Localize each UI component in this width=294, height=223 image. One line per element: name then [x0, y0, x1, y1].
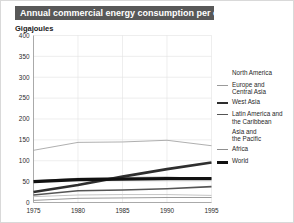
y-tick-50: 50 [22, 178, 30, 185]
legend-swatch-icon [217, 149, 228, 150]
x-axis-tick-labels: 19751980198519901995 [26, 207, 219, 214]
legend-item-label: World [232, 157, 293, 164]
y-tick-100: 100 [19, 157, 30, 164]
x-tick-1990: 1990 [160, 207, 175, 214]
x-tick-1985: 1985 [115, 207, 130, 214]
x-tick-1980: 1980 [71, 207, 86, 214]
legend-item-label: Europe and Central Asia [232, 81, 293, 95]
y-tick-300: 300 [19, 74, 30, 81]
legend-swatch-icon [217, 161, 228, 164]
legend-item-latin-america-and-the-caribbean[interactable]: Latin America and the Caribbean [217, 110, 293, 124]
x-tick-1995: 1995 [204, 207, 219, 214]
chart-figure: Annual commercial energy consumption per… [0, 0, 294, 223]
legend-item-north-america[interactable]: North America [217, 69, 293, 78]
y-tick-250: 250 [19, 94, 30, 101]
y-tick-200: 200 [19, 115, 30, 122]
legend-swatch-icon [217, 85, 228, 86]
legend-item-label: North America [232, 69, 293, 76]
y-tick-400: 400 [19, 32, 30, 39]
legend-item-label: Latin America and the Caribbean [232, 110, 293, 124]
legend-item-asia-and-the-pacific[interactable]: Asia and the Pacific [217, 128, 293, 142]
x-tick-1975: 1975 [26, 207, 41, 214]
legend-item-label: West Asia [232, 98, 293, 105]
chart-legend: North AmericaEurope and Central AsiaWest… [217, 69, 293, 169]
legend-item-label: Africa [232, 145, 293, 152]
y-tick-350: 350 [19, 53, 30, 60]
legend-swatch-icon [217, 102, 228, 104]
legend-item-west-asia[interactable]: West Asia [217, 98, 293, 107]
legend-item-label: Asia and the Pacific [232, 128, 293, 142]
y-tick-150: 150 [19, 136, 30, 143]
legend-item-africa[interactable]: Africa [217, 145, 293, 154]
legend-swatch-icon [217, 114, 228, 115]
legend-item-europe-and-central-asia[interactable]: Europe and Central Asia [217, 81, 293, 95]
legend-item-world[interactable]: World [217, 157, 293, 166]
y-axis-tick-labels: 050100150200250300350400 [19, 32, 30, 206]
y-tick-0: 0 [26, 199, 30, 206]
